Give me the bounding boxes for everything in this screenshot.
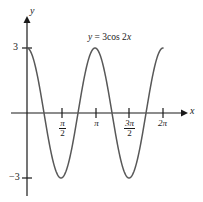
equation-operator: = 3cos 2	[92, 32, 127, 42]
x-tick-label-two-pi: 2π	[153, 119, 172, 128]
y-axis-label: y	[30, 6, 34, 16]
fraction-three-pi-over-2: 3π 2	[124, 119, 135, 139]
fraction-pi-over-2: π 2	[59, 119, 66, 139]
y-tick-label-minus-three: −3	[9, 172, 20, 182]
equation-rhs-variable: x	[127, 32, 131, 42]
x-tick-label-three-pi-over-2: 3π 2	[119, 119, 140, 139]
x-axis-label: x	[190, 106, 194, 116]
y-tick-label-three: 3	[13, 42, 18, 52]
two-pi-symbol: 2π	[158, 118, 167, 128]
plot-canvas	[0, 0, 203, 202]
fraction-denominator: 2	[124, 129, 135, 138]
cosine-graph-figure: y x 3 −3 y = 3cos 2x π 2 π 3π 2 2π	[0, 0, 203, 202]
x-tick-label-pi-over-2: π 2	[54, 119, 71, 139]
fraction-denominator: 2	[59, 129, 66, 138]
equation-annotation: y = 3cos 2x	[88, 33, 131, 43]
x-tick-label-pi: π	[88, 119, 105, 128]
pi-symbol: π	[94, 118, 99, 128]
